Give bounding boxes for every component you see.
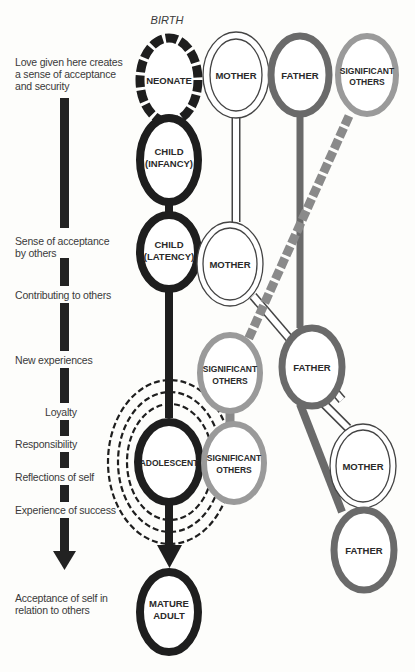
svg-text:SIGNIFICANT: SIGNIFICANT bbox=[340, 66, 395, 76]
relationship-diagram: BIRTH NEONATE MOTHER bbox=[0, 0, 415, 672]
node-mother-1: MOTHER bbox=[203, 32, 269, 118]
svg-text:MOTHER: MOTHER bbox=[215, 70, 256, 81]
svg-text:SIGNIFICANT: SIGNIFICANT bbox=[207, 453, 262, 463]
arrow-head-icon bbox=[157, 545, 182, 568]
svg-text:MOTHER: MOTHER bbox=[342, 461, 383, 472]
svg-text:NEONATE: NEONATE bbox=[146, 75, 192, 86]
svg-text:OTHERS: OTHERS bbox=[216, 465, 252, 475]
birth-label: BIRTH bbox=[151, 14, 184, 26]
node-child-latency: CHILD (LATENCY) bbox=[140, 215, 198, 289]
svg-text:SIGNIFICANT: SIGNIFICANT bbox=[203, 364, 258, 374]
svg-text:OTHERS: OTHERS bbox=[212, 376, 248, 386]
svg-text:FATHER: FATHER bbox=[293, 362, 330, 373]
svg-text:CHILD: CHILD bbox=[154, 146, 183, 157]
svg-text:CHILD: CHILD bbox=[154, 239, 183, 250]
svg-text:FATHER: FATHER bbox=[281, 70, 318, 81]
node-mother-3: MOTHER bbox=[330, 424, 396, 508]
svg-text:(INFANCY): (INFANCY) bbox=[145, 158, 193, 169]
node-father-2: FATHER bbox=[282, 328, 342, 406]
node-significant-others-2: SIGNIFICANT OTHERS bbox=[200, 335, 260, 411]
node-father-3: FATHER bbox=[334, 510, 394, 590]
node-mother-2: MOTHER bbox=[197, 222, 263, 306]
svg-text:(LATENCY): (LATENCY) bbox=[144, 251, 194, 262]
svg-text:FATHER: FATHER bbox=[345, 545, 382, 556]
node-significant-others-3: SIGNIFICANT OTHERS bbox=[204, 424, 264, 502]
svg-text:ADULT: ADULT bbox=[153, 610, 185, 621]
node-adolescent: ADOLESCENT bbox=[138, 422, 200, 502]
timeline-arrow bbox=[53, 98, 76, 570]
svg-text:ADOLESCENT: ADOLESCENT bbox=[140, 458, 199, 468]
node-mature-adult: MATURE ADULT bbox=[140, 572, 198, 652]
svg-text:MOTHER: MOTHER bbox=[209, 259, 250, 270]
svg-text:MATURE: MATURE bbox=[149, 598, 189, 609]
svg-text:OTHERS: OTHERS bbox=[349, 77, 385, 87]
arrow-head-icon bbox=[53, 551, 76, 570]
node-significant-others-1: SIGNIFICANT OTHERS bbox=[338, 36, 396, 114]
node-father-1: FATHER bbox=[271, 36, 329, 114]
node-neonate: NEONATE bbox=[140, 38, 198, 122]
node-child-infancy: CHILD (INFANCY) bbox=[140, 118, 198, 202]
